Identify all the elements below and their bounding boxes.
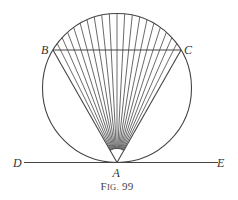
figure-caption: FIG. 99 [100,180,133,192]
fan-line [123,38,172,150]
label-d: D [12,156,22,170]
fan-line [118,14,125,149]
fan-line [109,14,116,149]
geometry-figure: B C D E A FIG. 99 [0,0,238,200]
fan-line [80,23,113,149]
label-a: A [112,166,121,180]
fan-line [121,23,154,149]
fan-line [62,38,111,150]
figure-drawing [24,14,218,163]
label-e: E [216,156,225,170]
label-c: C [184,43,193,57]
label-b: B [41,43,49,57]
